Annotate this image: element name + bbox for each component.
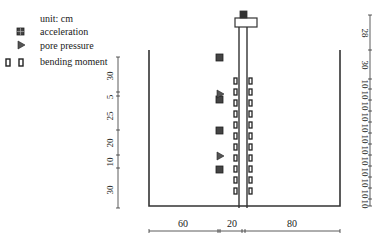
svg-text:30: 30 <box>360 61 370 71</box>
svg-text:10: 10 <box>360 200 370 210</box>
svg-text:10: 10 <box>360 190 370 200</box>
svg-text:10: 10 <box>360 135 370 145</box>
svg-text:25: 25 <box>105 111 115 121</box>
bending-moment-gauges <box>234 78 252 194</box>
svg-text:5: 5 <box>105 94 115 99</box>
svg-text:10: 10 <box>105 157 115 167</box>
svg-text:10: 10 <box>360 124 370 134</box>
bottom-dimension-line <box>149 229 340 233</box>
bottom-dimension-labels: 60 20 80 <box>178 218 297 229</box>
svg-text:30: 30 <box>105 185 115 195</box>
left-dimension-line <box>116 57 120 208</box>
svg-text:80: 80 <box>287 218 297 229</box>
right-dimension-labels: 28 30 10 10 10 10 10 10 10 10 10 10 10 1… <box>360 29 370 210</box>
svg-text:10: 10 <box>360 91 370 101</box>
svg-text:10: 10 <box>360 102 370 112</box>
svg-text:28: 28 <box>360 29 370 39</box>
container-outline <box>149 50 340 206</box>
svg-text:60: 60 <box>178 218 188 229</box>
svg-text:20: 20 <box>105 138 115 148</box>
pile <box>235 11 257 208</box>
svg-text:20: 20 <box>227 218 237 229</box>
svg-text:10: 10 <box>360 168 370 178</box>
svg-text:10: 10 <box>360 113 370 123</box>
model-diagram: 30 5 25 20 10 30 28 30 10 10 10 10 10 10… <box>0 0 391 244</box>
svg-text:10: 10 <box>360 146 370 156</box>
right-dimension-line <box>368 15 372 206</box>
svg-text:30: 30 <box>105 71 115 81</box>
svg-text:10: 10 <box>360 157 370 167</box>
left-dimension-labels: 30 5 25 20 10 30 <box>105 71 115 195</box>
svg-text:10: 10 <box>360 80 370 90</box>
svg-text:10: 10 <box>360 179 370 189</box>
